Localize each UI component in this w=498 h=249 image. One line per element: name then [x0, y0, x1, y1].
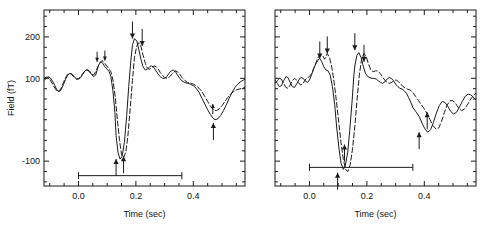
x-tick-label: 0.2: [130, 191, 143, 201]
x-tick-label: 0.2: [361, 191, 374, 201]
x-axis-title: Time (sec): [123, 209, 165, 219]
y-tick-label: 200: [25, 32, 40, 42]
figure-container: 0.00.20.4Time (sec)200100-100Field (fT) …: [0, 0, 498, 249]
figure-background: [0, 0, 498, 249]
y-tick-label: -100: [22, 156, 40, 166]
x-axis-title: Time (sec): [354, 209, 396, 219]
figure-svg: 0.00.20.4Time (sec)200100-100Field (fT) …: [0, 0, 498, 249]
x-tick-label: 0.4: [418, 191, 431, 201]
x-tick-label: 0.0: [303, 191, 316, 201]
y-tick-label: 100: [25, 74, 40, 84]
x-tick-label: 0.0: [72, 191, 85, 201]
x-tick-label: 0.4: [187, 191, 200, 201]
y-axis-title: Field (fT): [6, 80, 16, 116]
